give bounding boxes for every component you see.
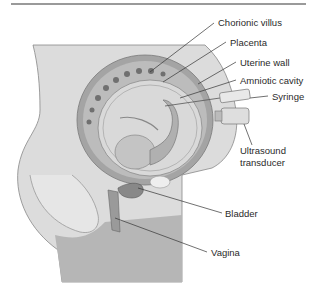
label-ultrasound-line1: Ultrasound: [240, 145, 286, 156]
label-amniotic-cavity: Amniotic cavity: [240, 75, 303, 86]
label-uterine-wall: Uterine wall: [240, 57, 290, 68]
pubic-bone: [150, 176, 170, 188]
fetus-head: [115, 135, 155, 169]
label-syringe: Syringe: [272, 91, 304, 102]
label-ultrasound-line2: transducer: [240, 157, 285, 168]
label-placenta: Placenta: [230, 37, 267, 48]
label-chorionic-villus: Chorionic villus: [218, 17, 282, 28]
label-vagina: Vagina: [211, 247, 240, 258]
label-bladder: Bladder: [225, 208, 258, 219]
